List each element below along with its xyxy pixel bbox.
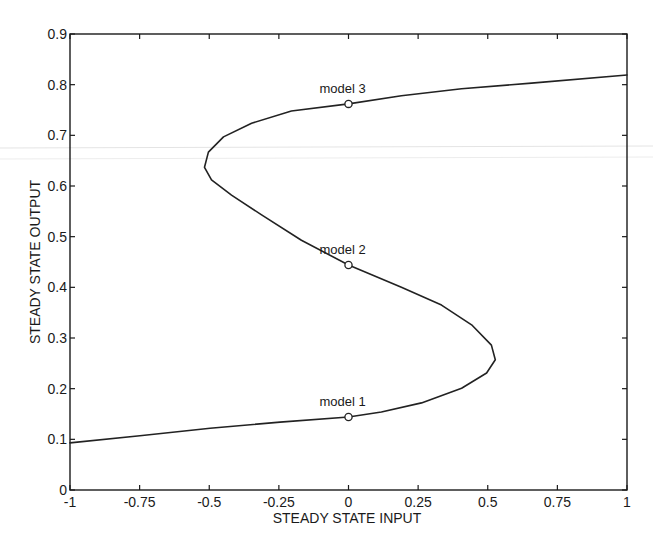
series-layer <box>70 75 627 443</box>
y-tick-label: 0 <box>59 482 67 498</box>
model-marker-circle <box>345 413 352 420</box>
y-axis-title: STEADY STATE OUTPUT <box>27 179 43 344</box>
x-tick-label: 0 <box>345 494 353 510</box>
y-tick-label: 0.2 <box>48 381 68 397</box>
scan-artifact-line <box>0 146 653 148</box>
model-annotation-label: model 2 <box>319 242 365 257</box>
y-tick-label: 0.7 <box>48 127 68 143</box>
y-tick-label: 0.8 <box>48 77 68 93</box>
model-annotation-label: model 3 <box>319 81 365 96</box>
x-tick-label: -0.5 <box>197 494 221 510</box>
marker-layer: model 1model 2model 3 <box>319 81 365 421</box>
y-tick-label: 0.3 <box>48 330 68 346</box>
model-marker-circle <box>345 261 352 268</box>
y-tick-label: 0.5 <box>48 229 68 245</box>
s-curve-chart: -1-0.75-0.5-0.2500.250.50.751 00.10.20.3… <box>0 0 653 549</box>
model-annotation-label: model 1 <box>319 394 365 409</box>
y-tick-label: 0.9 <box>48 26 68 42</box>
model-marker-circle <box>345 100 352 107</box>
x-tick-label: 0.75 <box>544 494 571 510</box>
x-tick-label: 0.5 <box>478 494 498 510</box>
y-tick-label: 0.6 <box>48 178 68 194</box>
x-tick-label: 1 <box>623 494 631 510</box>
x-tick-label: -0.25 <box>263 494 295 510</box>
steady-state-curve <box>70 75 627 443</box>
y-tick-label: 0.1 <box>48 431 68 447</box>
x-axis-title: STEADY STATE INPUT <box>273 510 422 526</box>
scan-artifact-line <box>0 157 653 159</box>
x-tick-label: 0.25 <box>405 494 432 510</box>
x-tick-label: -0.75 <box>124 494 156 510</box>
y-tick-label: 0.4 <box>48 279 68 295</box>
y-axis-ticks: 00.10.20.30.40.50.60.70.80.9 <box>48 26 627 498</box>
